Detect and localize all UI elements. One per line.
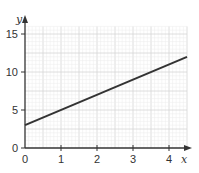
- y-tick-label: 15: [6, 28, 18, 40]
- line-chart: 0 1 2 3 4 0 5 10 15 x y: [0, 0, 199, 173]
- x-axis-arrow-icon: [184, 145, 192, 151]
- y-axis-arrow-icon: [22, 15, 28, 23]
- y-tick-label: 10: [6, 66, 18, 78]
- axes: [22, 15, 192, 151]
- y-tick-label: 0: [12, 142, 18, 154]
- x-tick-label: 2: [94, 153, 100, 165]
- grid: [25, 26, 187, 148]
- x-tick-label: 1: [58, 153, 64, 165]
- y-tick-label: 5: [12, 104, 18, 116]
- x-tick-label: 3: [130, 153, 136, 165]
- y-axis-label: y: [15, 13, 23, 26]
- x-tick-label: 0: [22, 153, 28, 165]
- x-axis-label: x: [181, 153, 188, 166]
- x-tick-label: 4: [166, 153, 172, 165]
